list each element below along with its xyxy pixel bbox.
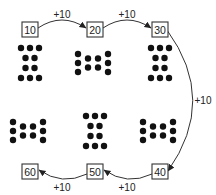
number-box-60: 60 [22,164,38,179]
number-box-40: 40 [152,164,168,179]
arrow-30-to-40 [167,30,193,171]
dot-group-6 [140,119,176,143]
dot-group-1 [18,45,42,81]
step-label: +10 [195,95,212,106]
number-box-20: 20 [87,22,103,37]
counting-diagram: +10 +10 +10 +10 +10 10 20 30 40 50 60 [0,0,216,195]
number-box-30: 30 [152,22,168,37]
step-label: +10 [119,182,136,193]
box-value: 50 [89,166,101,178]
dot-group-2 [75,51,111,75]
dot-group-5 [83,113,107,149]
number-box-10: 10 [22,22,38,37]
step-label: +10 [54,182,71,193]
dot-group-4 [10,119,46,143]
box-value: 20 [89,24,101,36]
step-label: +10 [119,9,136,20]
box-value: 40 [154,166,166,178]
box-value: 30 [154,24,166,36]
number-box-50: 50 [87,164,103,179]
box-value: 10 [24,24,36,36]
step-label: +10 [54,9,71,20]
step-labels: +10 +10 +10 +10 +10 [54,9,212,193]
arrow-20-to-30 [103,20,151,28]
arrow-50-to-60 [39,170,87,179]
arrows [38,20,193,179]
box-value: 60 [24,166,36,178]
dot-group-3 [148,45,172,81]
arrow-40-to-50 [104,170,152,179]
arrow-10-to-20 [38,20,86,28]
